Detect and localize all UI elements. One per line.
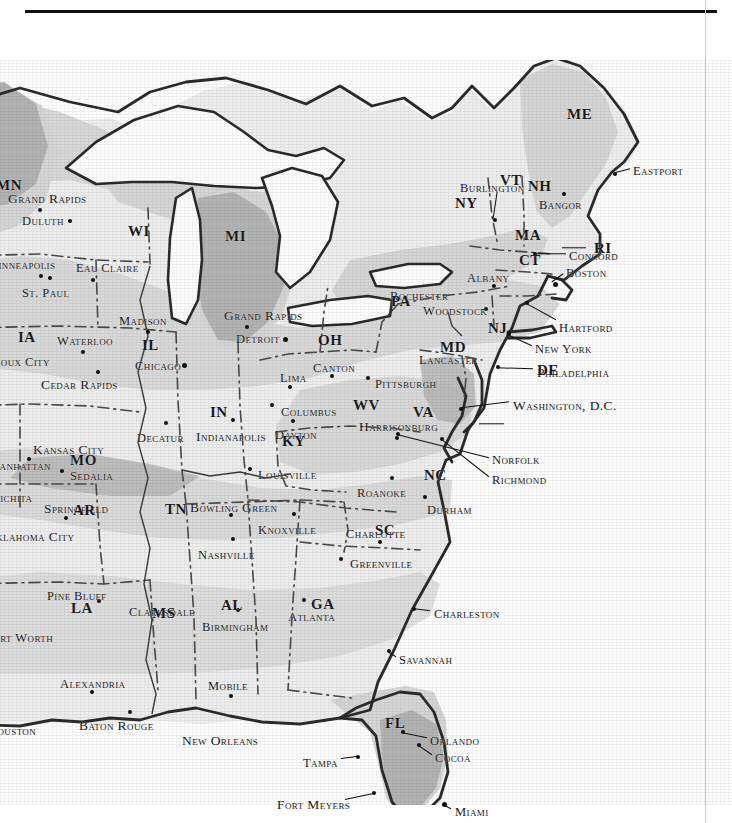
city-dot-harrisonburg [395, 436, 399, 440]
top-rule [25, 10, 717, 13]
city-dot-burlington [493, 218, 497, 222]
city-dot-madison [146, 330, 150, 334]
city-dot-boston [553, 282, 558, 287]
city-dot-lima [288, 385, 292, 389]
city-label-baton-rouge: Baton Rouge [79, 719, 154, 733]
city-label-oklahoma-city: Oklahoma City [0, 530, 74, 544]
city-label-bowling-green: Bowling Green [190, 501, 277, 515]
city-label-columbus: Columbus [281, 406, 337, 419]
city-label-sedalia: Sedalia [70, 470, 113, 483]
city-dot-new-york [507, 332, 511, 336]
city-dot-springfield [64, 516, 68, 520]
city-dot-cocoa [417, 743, 421, 747]
city-label-albany: Albany [467, 272, 509, 285]
city-label-indianapolis: Indianapolis [196, 430, 266, 444]
city-dot-indianapolis [231, 418, 235, 422]
atlas-page: Grand RapidsDuluthMinneapolisSt. PaulEau… [0, 0, 732, 823]
state-label-de: DE [537, 363, 559, 378]
state-label-ma: MA [515, 228, 541, 243]
city-label-cedar-rapids: Cedar Rapids [41, 378, 118, 392]
city-dot-savannah [387, 649, 391, 653]
city-dot-pittsburgh [366, 376, 370, 380]
state-label-mn: MN [0, 178, 22, 193]
state-label-ri: RI [594, 241, 612, 256]
city-label-new-orleans: New Orleans [182, 734, 258, 748]
leader-line-delaware [479, 423, 504, 424]
state-label-sc: SC [375, 523, 395, 538]
city-dot-durham [423, 495, 427, 499]
state-label-vt: VT [500, 173, 522, 188]
city-dot-baton-rouge [128, 710, 132, 714]
city-label-duluth: Duluth [22, 215, 64, 228]
city-label-madison: Madison [119, 315, 167, 328]
city-label-hartford: Hartford [559, 322, 613, 335]
city-label-waterloo: Waterloo [57, 335, 113, 348]
city-dot-tampa [356, 755, 360, 759]
city-dot-greenville [339, 557, 343, 561]
city-label-eau-claire: Eau Claire [76, 262, 139, 275]
city-dot-decatur [164, 421, 168, 425]
city-label-louisville: Louisville [258, 469, 317, 482]
state-label-mi: MI [225, 229, 246, 244]
state-label-ms: MS [152, 606, 176, 621]
city-label-new-york: New York [535, 343, 592, 356]
state-label-ct: CT [519, 253, 541, 268]
city-dot-nashville [231, 537, 235, 541]
city-label-sioux-city: Sioux City [0, 356, 50, 369]
city-dot-bangor [562, 192, 566, 196]
city-label-harrisonburg: Harrisonburg [359, 420, 438, 434]
city-dot-knoxville [292, 512, 296, 516]
bleedthrough-text [285, 22, 535, 56]
city-label-knoxville: Knoxville [258, 524, 316, 537]
state-label-wi: WI [128, 224, 150, 239]
city-label-cocoa: Cocoa [435, 752, 471, 765]
city-dot-dayton [291, 419, 295, 423]
city-label-minneapolis: Minneapolis [0, 258, 55, 272]
city-dot-philadelphia [496, 365, 500, 369]
city-label-bangor: Bangor [539, 199, 582, 212]
state-label-pa: PA [391, 294, 411, 309]
city-dot-atlanta [302, 598, 306, 602]
state-label-me: ME [567, 107, 592, 122]
city-label-orlando: Orlando [430, 735, 479, 748]
city-dot-st-paul [48, 276, 52, 280]
city-dot-cedar-rapids [96, 370, 100, 374]
city-label-wichita: Wichita [0, 492, 32, 505]
city-label-eastport: Eastport [633, 165, 683, 178]
state-label-il: IL [142, 338, 159, 353]
city-label-birmingham: Birmingham [202, 621, 268, 634]
city-label-lima: Lima [280, 372, 307, 385]
city-dot-sedalia [60, 469, 64, 473]
city-dot-louisville [248, 467, 252, 471]
city-label-richmond: Richmond [492, 474, 547, 487]
city-label-chicago: Chicago [135, 360, 181, 373]
state-label-nc: NC [424, 468, 447, 483]
city-dot-fort-meyers [372, 791, 376, 795]
state-label-la: LA [71, 601, 93, 616]
city-dot-grand-rapids [38, 208, 42, 212]
city-label-washington-d-c: Washington, D.C. [513, 399, 617, 413]
state-label-ia: IA [18, 330, 36, 345]
state-label-ga: GA [311, 597, 335, 612]
city-label-pittsburgh: Pittsburgh [375, 378, 436, 391]
city-label-houston: Houston [0, 725, 36, 738]
city-label-woodstock: Woodstock [423, 305, 487, 318]
state-label-fl: FL [385, 716, 405, 731]
city-label-fort-worth: Fort Worth [0, 632, 53, 645]
city-label-atlanta: Atlanta [288, 611, 335, 624]
city-label-tampa: Tampa [303, 757, 338, 770]
city-label-savannah: Savannah [399, 654, 452, 667]
city-dot-columbus [270, 403, 274, 407]
city-dot-richmond [440, 437, 444, 441]
state-label-va: VA [413, 405, 434, 420]
city-label-mobile: Mobile [208, 680, 248, 693]
city-label-manhattan: Manhattan [0, 460, 51, 473]
city-label-miami: Miami [455, 806, 489, 819]
city-label-greenville: Greenville [350, 558, 413, 571]
city-dot-detroit [283, 337, 288, 342]
city-label-boston: Boston [566, 267, 607, 280]
city-label-nashville: Nashville [198, 549, 255, 562]
city-label-detroit: Detroit [236, 333, 280, 346]
city-dot-roanoke [390, 476, 394, 480]
city-dot-eau-claire [91, 278, 95, 282]
